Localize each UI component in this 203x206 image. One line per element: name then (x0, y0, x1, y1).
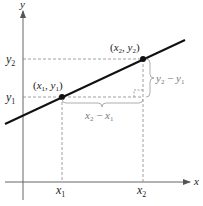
x1-tick-label: x1 (55, 183, 65, 199)
x-axis-label: x (193, 175, 199, 187)
right-angle-mark (134, 90, 143, 97)
y1-tick-label: y1 (5, 90, 15, 106)
run-bracket (62, 99, 143, 107)
x2-tick-label: x2 (136, 183, 146, 199)
slope-diagram: x y y2 y1 x1 x2 (x1, y1) (x2, y2) x2 − x… (0, 0, 203, 206)
point-1-label: (x1, y1) (33, 79, 63, 93)
rise-label: y2 − y1 (155, 72, 185, 86)
point-2 (140, 56, 146, 62)
dashed-guides (23, 59, 143, 182)
y-axis-label: y (19, 0, 25, 10)
run-label: x2 − x1 (84, 109, 114, 123)
rise-bracket (146, 59, 154, 97)
y2-tick-label: y2 (5, 52, 15, 68)
point-2-label: (x2, y2) (110, 41, 140, 55)
